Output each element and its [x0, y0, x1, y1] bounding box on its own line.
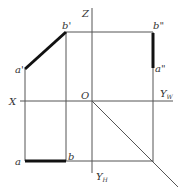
projection-diagram: Z X O YW YH b' a' b" a" a b: [0, 0, 185, 196]
label-b-prime: b': [62, 20, 71, 31]
label-a-double: a": [155, 63, 166, 74]
diagonal-45: [92, 101, 178, 187]
segment-front-view: [25, 32, 66, 69]
label-a-prime: a': [15, 64, 24, 75]
label-z: Z: [81, 8, 90, 19]
label-o: O: [81, 90, 89, 101]
label-x: X: [8, 96, 17, 107]
label-b-double: b": [153, 20, 164, 31]
label-b: b: [68, 151, 74, 162]
label-yh: YH: [96, 171, 109, 183]
label-yw: YW: [160, 88, 174, 100]
label-a: a: [15, 156, 21, 167]
